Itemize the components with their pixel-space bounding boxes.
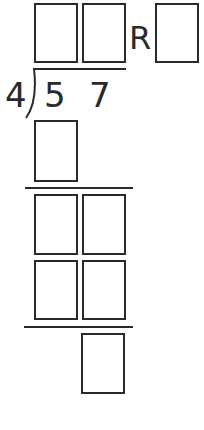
second-product-tens-box[interactable] — [34, 260, 78, 320]
remainder-box[interactable] — [155, 3, 199, 63]
divisor: 4 — [5, 78, 27, 112]
final-remainder-box[interactable] — [81, 333, 125, 394]
first-difference-tens-box[interactable] — [34, 194, 78, 255]
first-difference-ones-box[interactable] — [82, 194, 126, 255]
quotient-tens-box[interactable] — [34, 3, 78, 63]
second-product-ones-box[interactable] — [82, 260, 126, 320]
dividend-digit-ones: 7 — [89, 78, 111, 112]
dividend-digit-tens: 5 — [44, 78, 66, 112]
subtraction-line-2 — [24, 326, 133, 328]
quotient-ones-box[interactable] — [82, 3, 126, 63]
division-vinculum — [33, 68, 126, 70]
subtraction-line-1 — [25, 187, 133, 189]
remainder-label: R — [129, 22, 151, 54]
first-product-box[interactable] — [34, 120, 78, 182]
